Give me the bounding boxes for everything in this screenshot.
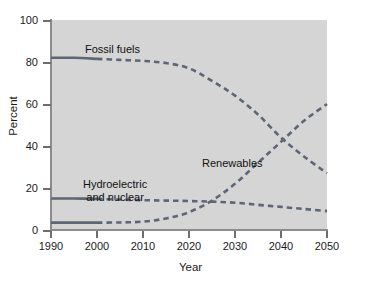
series-label-hydro-line1: Hydroelectric: [83, 178, 147, 190]
series-label-renewables: Renewables: [202, 157, 263, 170]
chart-figure: 100 80 60 40 20 0 1990 2000 2010 2020 20…: [0, 0, 381, 285]
series-lines-svg: [0, 0, 381, 285]
series-label-hydro-line2: and nuclear: [86, 191, 144, 203]
series-solid-0: [51, 58, 97, 59]
series-label-hydroelectric-and-nuclear: Hydroelectric and nuclear: [83, 178, 147, 203]
series-label-fossil-fuels: Fossil fuels: [85, 43, 140, 56]
